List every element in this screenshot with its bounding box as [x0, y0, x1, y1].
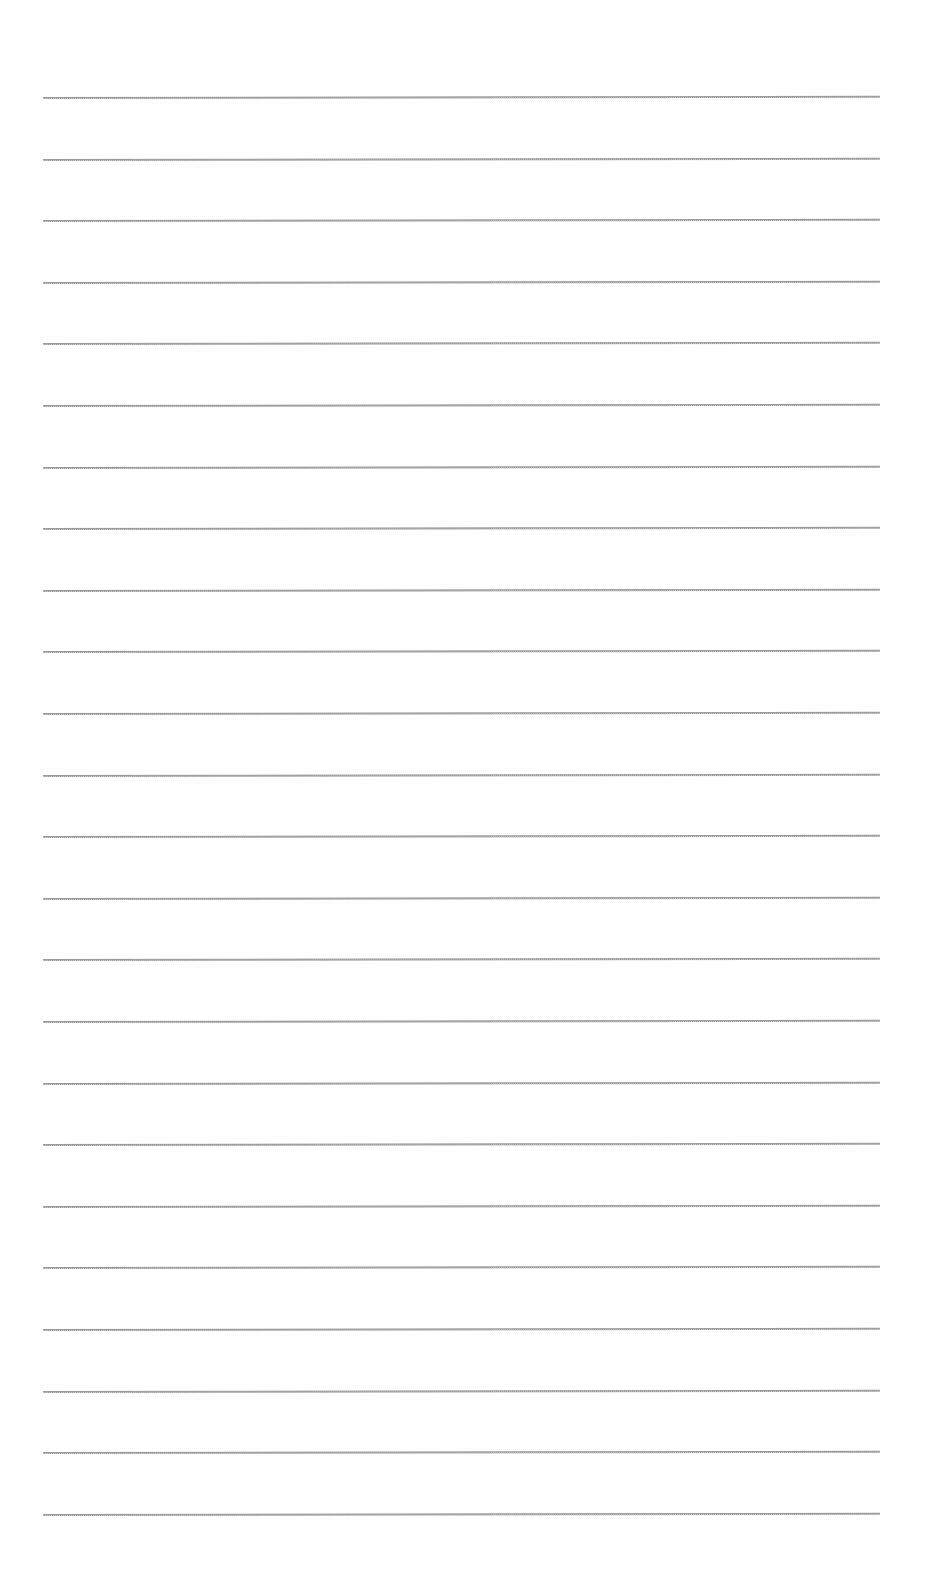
- ruled-line: [43, 589, 880, 592]
- ruled-line: [43, 1390, 880, 1393]
- ruled-line: [43, 1143, 880, 1146]
- lined-paper-page: [0, 0, 926, 1576]
- ruled-line: [43, 281, 880, 284]
- ruled-line: [43, 466, 880, 469]
- ruled-line: [43, 158, 880, 161]
- ruled-line: [43, 1451, 880, 1454]
- ruled-line: [43, 1020, 880, 1023]
- ruled-line: [43, 712, 880, 715]
- ruled-line: [43, 774, 880, 777]
- ruled-line: [43, 835, 880, 838]
- ruled-line: [43, 1513, 880, 1516]
- ruled-line: [43, 1082, 880, 1085]
- ruled-line: [43, 342, 880, 345]
- ruled-line: [43, 404, 880, 407]
- ruled-line: [43, 958, 880, 961]
- ruled-line: [43, 219, 880, 222]
- ruled-line: [43, 527, 880, 530]
- ruled-line: [43, 1266, 880, 1269]
- ruled-line: [43, 96, 880, 99]
- ruled-line: [43, 650, 880, 653]
- ruled-line: [43, 1205, 880, 1208]
- ruled-line: [43, 1328, 880, 1331]
- ruled-line: [43, 897, 880, 900]
